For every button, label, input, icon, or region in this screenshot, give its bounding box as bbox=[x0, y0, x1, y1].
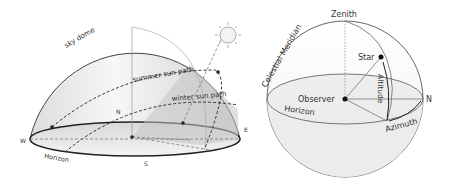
horizon-label: Horizon bbox=[44, 152, 70, 164]
west-label: W bbox=[20, 137, 26, 144]
sky-dome-label: sky dome bbox=[63, 26, 96, 50]
north-label: N bbox=[426, 95, 432, 104]
diagram-canvas: sky dome summer sun path winter sun path… bbox=[0, 0, 452, 188]
altitude-label: Altitude bbox=[376, 74, 385, 104]
east-label: E bbox=[244, 126, 248, 133]
celestial-sphere-diagram: Zenith Celestial Meridian Star Altitude … bbox=[260, 10, 432, 177]
observer-label: Observer bbox=[298, 95, 335, 104]
observer-point bbox=[343, 97, 348, 102]
zenith-label: Zenith bbox=[331, 10, 357, 19]
sky-dome-diagram: sky dome summer sun path winter sun path… bbox=[20, 22, 248, 167]
north-label: N bbox=[116, 108, 121, 115]
star-label: Star bbox=[358, 53, 375, 62]
sun-icon bbox=[220, 27, 236, 43]
south-label: S bbox=[144, 160, 148, 167]
star-point bbox=[379, 55, 384, 60]
